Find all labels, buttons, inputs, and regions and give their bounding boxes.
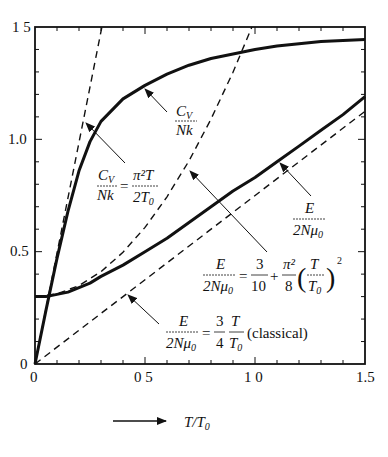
annotation-arrows bbox=[86, 89, 311, 324]
y-tick-label: 0.5 bbox=[10, 243, 29, 259]
arrow-cv-linear bbox=[86, 123, 125, 163]
y-tick-label: 0 bbox=[20, 356, 28, 372]
svg-text:=: = bbox=[120, 178, 128, 194]
svg-text:T: T bbox=[310, 256, 320, 272]
x-tick-label: 1 0 bbox=[244, 369, 263, 385]
svg-text:Nk: Nk bbox=[175, 122, 193, 138]
svg-text:=: = bbox=[239, 268, 247, 284]
x-tick-label: 0 5 bbox=[134, 369, 153, 385]
series-cv-nk-t-2t0 bbox=[35, 27, 102, 364]
svg-text:): ) bbox=[326, 262, 335, 293]
label-e-quadratic: E 2Nμ0 = 3 10 + π² 8 ( T T0 ) 2 bbox=[203, 255, 342, 296]
svg-text:CV: CV bbox=[176, 103, 194, 121]
x-tick-label: 1.5 bbox=[356, 369, 375, 385]
svg-text:3: 3 bbox=[256, 256, 264, 272]
chart-canvas: 1 5 1.0 0.5 0 0 0 5 1 0 1.5 T/T0 CV Nk C… bbox=[0, 0, 388, 457]
svg-text:CV: CV bbox=[98, 167, 116, 185]
y-tick-label: 1.0 bbox=[8, 131, 27, 147]
svg-text:π²: π² bbox=[283, 256, 296, 272]
svg-text:2: 2 bbox=[337, 255, 342, 266]
arrow-e-classical bbox=[128, 295, 159, 324]
svg-text:3: 3 bbox=[216, 313, 224, 329]
svg-text:+: + bbox=[270, 268, 278, 284]
svg-text:8: 8 bbox=[285, 278, 293, 294]
axis-ticks bbox=[35, 27, 365, 364]
svg-text:E: E bbox=[304, 200, 314, 216]
svg-text:T/T0: T/T0 bbox=[184, 414, 210, 432]
arrow-cv bbox=[145, 89, 167, 112]
svg-text:2Nμ0: 2Nμ0 bbox=[293, 222, 323, 240]
series-cv-nk bbox=[35, 39, 365, 364]
label-cv: CV Nk bbox=[175, 103, 197, 138]
label-cv-linear: CV Nk = π²T 2T0 bbox=[96, 167, 159, 207]
curves bbox=[35, 27, 365, 364]
svg-text:2T0: 2T0 bbox=[133, 189, 154, 207]
label-e-classical: E 2Nμ0 = 3 4 T T0 (classical) bbox=[166, 313, 308, 353]
svg-text:E: E bbox=[215, 256, 225, 272]
label-e: E 2Nμ0 bbox=[293, 200, 325, 240]
svg-text:4: 4 bbox=[216, 335, 224, 351]
svg-text:T0: T0 bbox=[308, 278, 321, 296]
arrow-e bbox=[280, 163, 311, 196]
svg-text:(classical): (classical) bbox=[247, 325, 308, 342]
svg-text:=: = bbox=[202, 325, 210, 341]
svg-text:Nk: Nk bbox=[96, 187, 114, 203]
arrow-e-quad bbox=[190, 171, 267, 252]
svg-text:2Nμ0: 2Nμ0 bbox=[203, 278, 233, 296]
svg-text:(: ( bbox=[297, 262, 306, 293]
plot-frame bbox=[35, 27, 365, 364]
x-axis-label: T/T0 bbox=[113, 414, 210, 432]
svg-text:2Nμ0: 2Nμ0 bbox=[166, 335, 196, 353]
y-tick-label: 1 5 bbox=[12, 19, 31, 35]
svg-text:π²T: π²T bbox=[133, 167, 155, 183]
svg-text:10: 10 bbox=[251, 278, 266, 294]
svg-text:T0: T0 bbox=[229, 335, 242, 353]
x-tick-label: 0 bbox=[30, 369, 38, 385]
svg-text:T: T bbox=[231, 313, 241, 329]
svg-text:E: E bbox=[178, 313, 188, 329]
